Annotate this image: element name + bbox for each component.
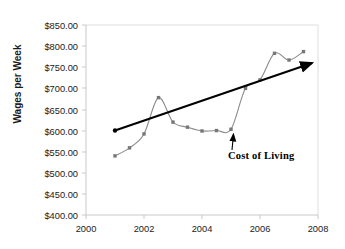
y-axis-ticks	[82, 25, 86, 215]
plot-area	[0, 0, 345, 249]
data-point-marker	[113, 154, 116, 157]
cost-of-living-annotation-label: Cost of Living	[228, 150, 294, 161]
data-point-marker	[200, 129, 203, 132]
data-point-marker	[157, 96, 160, 99]
data-point-marker	[229, 128, 232, 131]
cost-of-living-line	[115, 52, 304, 156]
data-point-marker	[186, 125, 189, 128]
data-point-marker	[302, 50, 305, 53]
plot-frame	[86, 25, 318, 215]
x-axis-ticks	[86, 215, 318, 219]
data-point-marker	[215, 129, 218, 132]
data-point-marker	[142, 132, 145, 135]
trend-line	[115, 63, 312, 131]
cost-of-living-markers	[113, 50, 305, 158]
data-point-marker	[171, 120, 174, 123]
trend-line-start-dot	[113, 128, 117, 132]
data-point-marker	[273, 52, 276, 55]
data-point-marker	[128, 146, 131, 149]
chart-container: Wages per Week $850.00 $800.00 $750.00 $…	[0, 0, 345, 249]
data-point-marker	[287, 58, 290, 61]
cost-of-living-annotation-arrow	[232, 134, 234, 150]
